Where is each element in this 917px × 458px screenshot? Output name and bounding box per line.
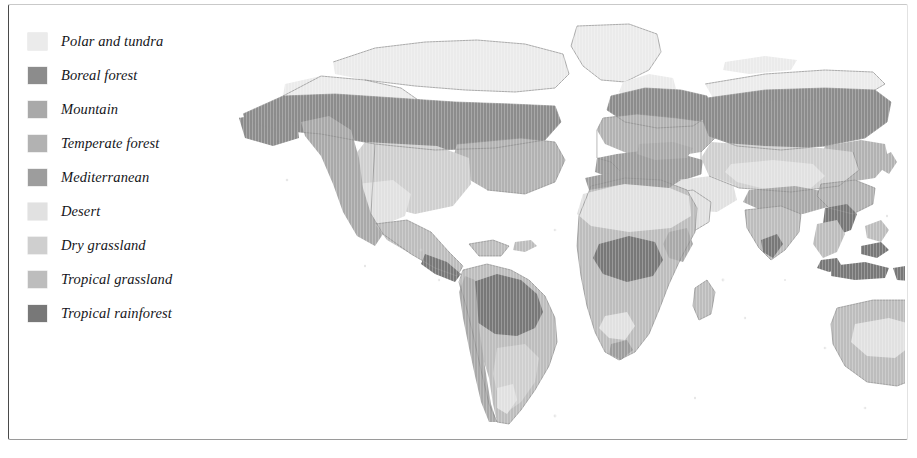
- legend-swatch-tropical-grassland: [28, 271, 47, 288]
- map-legend: Polar and tundra Boreal forest Mountain …: [28, 24, 243, 330]
- legend-label-polar: Polar and tundra: [61, 33, 163, 50]
- legend-item-tropical-rainforest: Tropical rainforest: [28, 296, 243, 330]
- legend-label-temperate-forest: Temperate forest: [61, 135, 159, 152]
- legend-item-mediterranean: Mediterranean: [28, 160, 243, 194]
- legend-swatch-temperate-forest: [28, 135, 47, 152]
- legend-swatch-tropical-rainforest: [28, 305, 47, 322]
- legend-item-temperate-forest: Temperate forest: [28, 126, 243, 160]
- biome-map-figure: Polar and tundra Boreal forest Mountain …: [0, 0, 917, 458]
- halftone-overlay: [225, 18, 905, 428]
- legend-label-desert: Desert: [61, 203, 100, 220]
- legend-item-tropical-grassland: Tropical grassland: [28, 262, 243, 296]
- legend-item-dry-grassland: Dry grassland: [28, 228, 243, 262]
- legend-swatch-mountain: [28, 101, 47, 118]
- legend-label-tropical-grassland: Tropical grassland: [61, 271, 172, 288]
- legend-swatch-dry-grassland: [28, 237, 47, 254]
- legend-label-mountain: Mountain: [61, 101, 118, 118]
- legend-item-desert: Desert: [28, 194, 243, 228]
- legend-label-boreal: Boreal forest: [61, 67, 137, 84]
- legend-label-dry-grassland: Dry grassland: [61, 237, 146, 254]
- legend-swatch-mediterranean: [28, 169, 47, 186]
- legend-item-boreal: Boreal forest: [28, 58, 243, 92]
- legend-swatch-boreal: [28, 67, 47, 84]
- legend-swatch-desert: [28, 203, 47, 220]
- legend-item-polar: Polar and tundra: [28, 24, 243, 58]
- legend-label-mediterranean: Mediterranean: [61, 169, 149, 186]
- legend-swatch-polar: [28, 33, 47, 50]
- legend-label-tropical-rainforest: Tropical rainforest: [61, 305, 172, 322]
- world-map: [225, 18, 905, 428]
- legend-item-mountain: Mountain: [28, 92, 243, 126]
